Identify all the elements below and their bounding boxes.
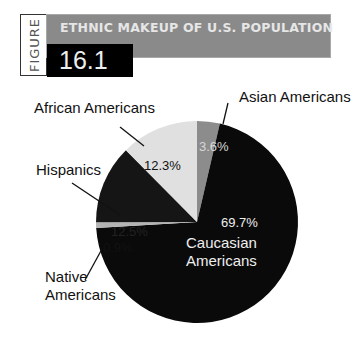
label-asian-americans: Asian Americans: [239, 88, 351, 106]
pct-african: 12.3%: [144, 157, 181, 175]
label-african-americans: African Americans: [34, 99, 155, 117]
pie-slices: [96, 121, 298, 323]
label-hispanics: Hispanics: [36, 161, 101, 179]
label-native-line1: Native: [45, 268, 88, 286]
pct-native: 0.9%: [103, 239, 133, 257]
label-native-line2: Americans: [45, 286, 116, 304]
label-caucasian-line2: Americans: [186, 252, 257, 270]
pct-asian: 3.6%: [199, 138, 229, 156]
pct-caucasian: 69.7%: [221, 214, 258, 232]
label-caucasian-line1: Caucasian: [186, 234, 257, 252]
pie-chart: [0, 0, 351, 362]
